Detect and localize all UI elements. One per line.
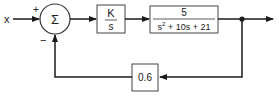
summing-junction: Σ [40,4,70,34]
controller-numerator: K [107,7,115,19]
sigma-symbol: Σ [51,12,59,27]
feedback-path-left [55,35,132,77]
plant-denominator: s2 + 10s + 21 [158,21,211,32]
plant-numerator: 5 [181,7,187,18]
controller-denominator: s [109,21,114,32]
input-label: x [4,13,10,25]
plant-block: 5 s2 + 10s + 21 [150,6,218,33]
controller-block: K s [97,5,125,33]
feedback-block: 0.6 [132,64,158,91]
feedback-gain: 0.6 [138,72,152,83]
block-diagram: x Σ + − K s 5 s2 + 10s + 21 0.6 [0,0,279,102]
minus-sign: − [40,34,46,46]
plus-sign: + [33,4,39,15]
